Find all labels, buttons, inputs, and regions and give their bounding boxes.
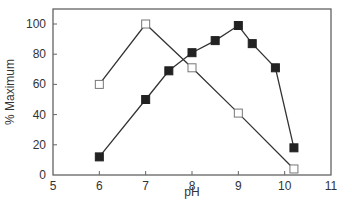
y-axis-ticks: 020406080100 [26,17,57,182]
x-tick-label: 5 [50,179,57,193]
x-tick-label: 7 [142,179,149,193]
x-tick-label: 6 [96,179,103,193]
filled-square-marker [248,40,256,48]
open-square-marker [290,165,298,173]
x-tick-label: 11 [325,179,338,193]
filled-square-marker [211,37,219,45]
y-tick-label: 0 [39,168,46,182]
series-layer [95,20,298,173]
open-square-marker [142,20,150,28]
filled-square-marker [165,67,173,75]
open-square-marker [234,109,242,117]
series-line [99,24,294,169]
chart: 020406080100 567891011 pH % Maximum [0,0,352,217]
y-tick-label: 100 [26,17,46,31]
x-tick-label: 9 [235,179,242,193]
open-square-marker [95,80,103,88]
filled-square-marker [234,22,242,30]
x-tick-label: 10 [278,179,292,193]
filled-square-marker [188,49,196,57]
filled-square-marker [271,64,279,72]
plot-frame [53,9,331,175]
filled-square-marker [142,96,150,104]
y-axis-label: % Maximum [3,59,17,125]
x-axis-label: pH [184,185,199,199]
y-tick-label: 80 [33,47,47,61]
y-tick-label: 40 [33,108,47,122]
filled-square-marker [290,144,298,152]
y-tick-label: 20 [33,138,47,152]
series-line [99,26,294,157]
y-tick-label: 60 [33,77,47,91]
filled-square-marker [95,153,103,161]
open-square-marker [188,64,196,72]
